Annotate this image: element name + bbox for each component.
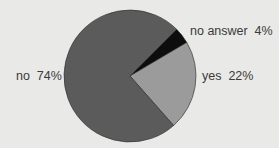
pie-chart: no answer 4% yes 22% no 74%	[0, 0, 279, 148]
label-no: no 74%	[16, 69, 62, 83]
label-no-answer: no answer 4%	[190, 24, 273, 38]
pie-slices	[64, 10, 196, 142]
label-yes: yes 22%	[202, 69, 253, 83]
